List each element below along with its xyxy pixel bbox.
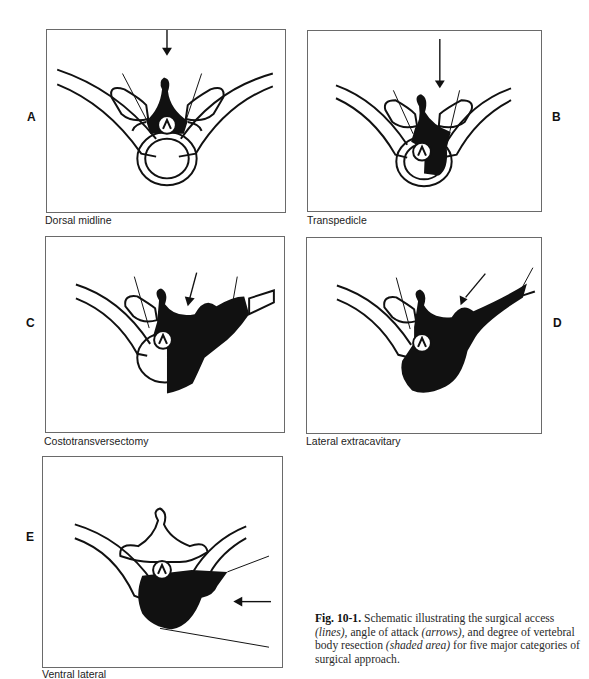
panel-e-ventral-lateral — [42, 456, 283, 668]
panel-letter-c: C — [26, 316, 35, 330]
panel-letter-d: D — [553, 316, 562, 330]
panel-label-a: Dorsal midline — [45, 214, 112, 226]
caption-arrows: (arrows), — [422, 626, 465, 639]
vertebra-diagram-a — [47, 30, 285, 212]
panel-a-dorsal-midline — [46, 29, 286, 213]
panel-label-e: Ventral lateral — [42, 668, 106, 679]
vertebra-diagram-b — [308, 31, 541, 211]
panel-label-d: Lateral extracavitary — [306, 435, 401, 447]
caption-lines: (lines), — [315, 626, 348, 639]
panel-letter-e: E — [26, 530, 34, 544]
panel-label-c: Costotransversectomy — [44, 435, 148, 447]
figure-caption: Fig. 10-1. Schematic illustrating the su… — [315, 612, 587, 666]
caption-text-1: Schematic illustrating the surgical acce… — [361, 612, 554, 625]
panel-b-transpedicle — [307, 30, 542, 212]
caption-shaded: (shaded area) — [386, 639, 450, 652]
panel-letter-b: B — [552, 110, 561, 124]
panel-c-costotransversectomy — [45, 236, 285, 433]
caption-text-2: angle of attack — [348, 626, 422, 639]
vertebra-diagram-c — [46, 237, 284, 432]
panel-label-b: Transpedicle — [307, 214, 367, 226]
vertebra-diagram-e — [43, 457, 282, 667]
panel-letter-a: A — [27, 110, 36, 124]
caption-fig-label: Fig. 10-1. — [315, 612, 361, 625]
panel-d-lateral-extracavitary — [306, 237, 542, 434]
vertebra-diagram-d — [307, 238, 541, 433]
